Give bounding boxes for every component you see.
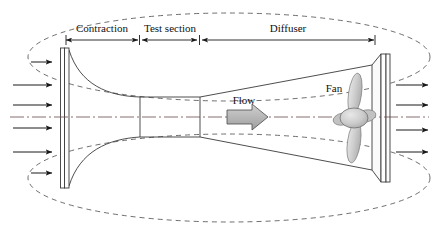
diffuser-lower-wall xyxy=(200,137,372,170)
test-section-label: Test section xyxy=(144,22,197,34)
inlet-flange-plate xyxy=(61,48,70,188)
diffuser-upper-wall xyxy=(200,65,372,97)
inlet-plate-edge xyxy=(65,48,70,188)
inlet-plate-face xyxy=(61,48,65,188)
wind-tunnel-diagram: Contraction Test section Diffuser Flow F… xyxy=(0,0,439,234)
flow-label: Flow xyxy=(233,94,256,106)
outlet-plate-front-face xyxy=(381,54,386,182)
fan-hub xyxy=(340,108,368,128)
contraction-lower-curve xyxy=(69,137,140,186)
fan-label: Fan xyxy=(326,82,343,94)
contraction-cone xyxy=(69,50,140,186)
inlet-streamline-arrows xyxy=(13,62,52,173)
outlet-plate-outer-edge xyxy=(386,54,390,182)
diffuser-label: Diffuser xyxy=(270,22,307,34)
dimension-lines xyxy=(66,35,375,45)
flow-arrow-shape xyxy=(227,104,268,130)
outlet-streamline-arrows xyxy=(396,85,428,152)
flow-arrow xyxy=(227,104,268,130)
wind-tunnel-schematic: Contraction Test section Diffuser Flow F… xyxy=(0,0,439,234)
contraction-upper-curve xyxy=(69,50,140,97)
contraction-label: Contraction xyxy=(76,22,128,34)
bottom-perspective-ellipse xyxy=(28,134,430,222)
